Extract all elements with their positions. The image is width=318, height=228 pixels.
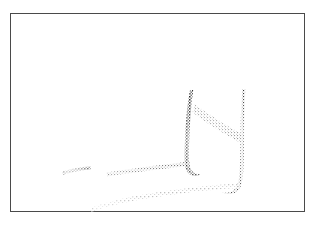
line-drawing-canvas	[0, 0, 318, 228]
page-root: Untitled stipple line sketch dithered ha…	[0, 0, 318, 228]
artboard: Untitled stipple line sketch dithered ha…	[0, 0, 318, 228]
